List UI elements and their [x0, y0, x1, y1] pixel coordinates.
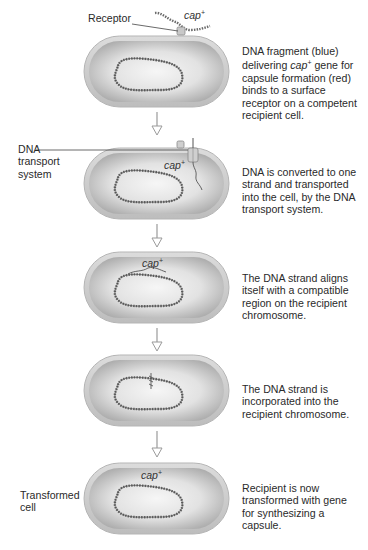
gene-superscript: + — [181, 159, 185, 166]
desc-line: transformed with gene — [242, 494, 367, 506]
gene-label-cap-plus: cap+ — [141, 469, 162, 481]
cell-step-4 — [84, 355, 229, 426]
arrow-down-icon — [152, 224, 162, 247]
step-2-description: DNA is converted to one strand and trans… — [242, 166, 367, 216]
gene-superscript: + — [158, 469, 162, 476]
desc-line: The DNA strand is — [242, 383, 367, 395]
gene-name: cap — [141, 469, 158, 481]
step-1-description: DNA fragment (blue) delivering cap+ gene… — [242, 45, 367, 121]
transformed-cell-label: Transformed cell — [20, 489, 80, 514]
gene-superscript: + — [201, 9, 205, 16]
desc-line: region on the recipient — [242, 297, 367, 309]
step-3-description: The DNA strand aligns itself with a comp… — [242, 272, 367, 322]
gene-label-cap-plus: cap+ — [164, 159, 185, 171]
desc-line: delivering cap+ gene for — [242, 57, 367, 71]
cell-step-2 — [36, 138, 229, 219]
desc-line: recipient cell. — [242, 109, 367, 121]
label-line: DNA — [18, 143, 60, 155]
label-line: system — [18, 168, 60, 180]
desc-line: incorporated into the — [242, 395, 367, 407]
transformation-diagram: Receptor DNA transport system Transforme… — [0, 0, 368, 550]
arrow-down-icon — [152, 431, 162, 457]
arrow-down-icon — [152, 112, 162, 135]
desc-line: capsule formation (red) — [242, 72, 367, 84]
step-5-description: Recipient is now transformed with gene f… — [242, 482, 367, 532]
cell-step-1 — [84, 13, 229, 107]
desc-line: DNA is converted to one — [242, 166, 367, 178]
label-line: transport — [18, 155, 60, 167]
desc-line: transport system. — [242, 203, 367, 215]
arrow-down-icon — [152, 328, 162, 351]
receptor — [177, 27, 185, 35]
desc-line: for synthesizing a — [242, 507, 367, 519]
gene-label-cap-plus: cap+ — [142, 257, 163, 269]
desc-line: DNA fragment (blue) — [242, 45, 367, 57]
receptor-label: Receptor — [88, 12, 131, 24]
desc-line: receptor on a competent — [242, 97, 367, 109]
desc-line: Recipient is now — [242, 482, 367, 494]
gene-superscript: + — [159, 257, 163, 264]
desc-line: strand and transported — [242, 178, 367, 190]
desc-line: recipient chromosome. — [242, 408, 367, 420]
gene-name: cap — [142, 257, 159, 269]
step-4-description: The DNA strand is incorporated into the … — [242, 383, 367, 420]
gene-name: cap — [184, 9, 201, 21]
label-line: Transformed — [20, 489, 80, 501]
desc-line: itself with a compatible — [242, 284, 367, 296]
dna-transport-system-label: DNA transport system — [18, 143, 60, 180]
label-line: cell — [20, 501, 80, 513]
desc-line: chromosome. — [242, 309, 367, 321]
desc-line: capsule. — [242, 519, 367, 531]
gene-label-cap-plus: cap+ — [184, 9, 205, 21]
gene-name: cap — [164, 159, 181, 171]
desc-line: into the cell, by the DNA — [242, 191, 367, 203]
desc-line: binds to a surface — [242, 84, 367, 96]
desc-line: The DNA strand aligns — [242, 272, 367, 284]
